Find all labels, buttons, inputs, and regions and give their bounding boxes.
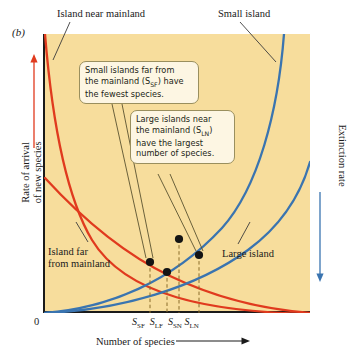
- tick-label-ssn: SSN: [168, 316, 182, 330]
- island-biogeography-figure: (b): [0, 0, 351, 359]
- y-axis-label-left: Rate of arrival of new species: [20, 112, 45, 232]
- callout2-line3: have the largest: [136, 138, 203, 148]
- label-island-far-from-mainland: Island far from mainland: [48, 246, 110, 270]
- x-axis-label: Number of species: [96, 336, 175, 347]
- extinction-rate-arrow: [316, 192, 323, 282]
- label-island-far-line1: Island far: [48, 246, 110, 258]
- tick-label-ssf: SSF: [132, 316, 145, 330]
- y-axis-label-right: Extinction rate: [337, 96, 348, 216]
- callout1-line1: Small islands far from: [85, 65, 174, 75]
- callout2-line1: Large islands near: [136, 114, 211, 124]
- tick-label-slf: SLF: [150, 316, 163, 330]
- tick-label-sln: SLN: [184, 316, 198, 330]
- number-of-species-arrow: [176, 338, 250, 345]
- callout1-sub: SF: [150, 80, 158, 87]
- y-axis-label-left-line2: of new species: [32, 112, 44, 232]
- callout2-line4: number of species.: [136, 148, 214, 158]
- label-island-far-line2: from mainland: [48, 258, 110, 270]
- callout-fewest-species: Small islands far from the mainland (SSF…: [79, 61, 199, 104]
- callout1-line2b: ) have: [158, 76, 184, 86]
- callout2-line2b: ): [209, 125, 212, 135]
- callout-largest-number: Large islands near the mainland (SLN) ha…: [130, 110, 235, 164]
- panel-letter: (b): [12, 26, 25, 38]
- label-small-island: Small island: [218, 8, 270, 19]
- label-island-near-mainland: Island near mainland: [57, 8, 145, 19]
- callout2-line2a: the mainland (S: [136, 125, 201, 135]
- callout1-line3: the fewest species.: [85, 89, 164, 99]
- callout1-line2a: the mainland (S: [85, 76, 150, 86]
- x-axis-tick-labels: SSF SLF SSN SLN: [132, 316, 199, 330]
- label-large-island: Large island: [222, 248, 274, 259]
- y-axis-label-left-line1: Rate of arrival: [20, 112, 32, 232]
- origin-label: 0: [34, 316, 39, 327]
